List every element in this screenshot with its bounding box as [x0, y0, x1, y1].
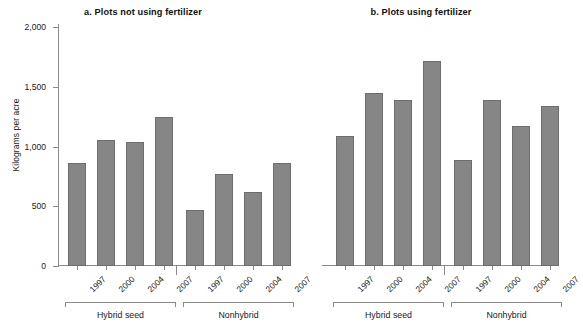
x-tick-label: 2007 [560, 274, 580, 294]
group-bracket [451, 302, 562, 307]
x-tick-mark [521, 266, 522, 270]
bar [483, 100, 501, 266]
bar [68, 163, 86, 266]
bar [541, 106, 559, 266]
x-tick-label: 2000 [116, 274, 136, 294]
x-tick-label: 2004 [413, 274, 433, 294]
x-tick-mark [224, 266, 225, 270]
chart-panel-b: b. Plots using fertilizer 19972000200420… [280, 0, 562, 329]
bar [394, 100, 412, 266]
group-separator-tick [444, 266, 445, 275]
x-tick-mark [374, 266, 375, 270]
y-tick-mark: 1,500 [53, 87, 59, 88]
y-tick-label: 1,500 [24, 82, 46, 92]
x-tick-mark [550, 266, 551, 270]
x-tick-mark [106, 266, 107, 270]
panel-a-title: a. Plots not using fertilizer [8, 7, 278, 17]
y-axis-label: Kilograms per acre [11, 70, 21, 200]
bar [454, 160, 472, 266]
bar [215, 174, 233, 266]
bar [336, 136, 354, 266]
y-axis-line [58, 24, 59, 266]
bar [365, 93, 383, 266]
bar [244, 192, 262, 266]
x-tick-label: 1997 [355, 274, 375, 294]
bar [423, 61, 441, 266]
x-tick-label: 2000 [502, 274, 522, 294]
y-tick-mark: 0 [53, 266, 59, 267]
x-tick-mark [432, 266, 433, 270]
x-tick-label: 1997 [473, 274, 493, 294]
bar [97, 140, 115, 266]
x-tick-label: 2000 [384, 274, 404, 294]
bar [186, 210, 204, 266]
y-tick-label: 1,000 [24, 142, 46, 152]
group-label: Nonhybrid [426, 310, 583, 320]
plot-area-a: 05001,0001,5002,000 1997200020042007Hybr… [58, 27, 286, 266]
group-bracket [65, 302, 176, 307]
x-tick-label: 1997 [205, 274, 225, 294]
x-tick-label: 2004 [531, 274, 551, 294]
x-tick-label: 1997 [87, 274, 107, 294]
chart-panel-a: a. Plots not using fertilizer Kilograms … [0, 0, 290, 329]
x-tick-mark [77, 266, 78, 270]
x-tick-mark [253, 266, 254, 270]
panel-b-title: b. Plots using fertilizer [280, 7, 562, 17]
y-tick-mark: 1,000 [53, 147, 59, 148]
y-tick-mark: 500 [53, 206, 59, 207]
x-tick-mark [403, 266, 404, 270]
x-tick-label: 2007 [442, 274, 462, 294]
group-separator-tick [176, 266, 177, 275]
bar [512, 126, 530, 266]
x-tick-mark [463, 266, 464, 270]
x-tick-mark [492, 266, 493, 270]
y-tick-label: 0 [41, 261, 46, 271]
bar [126, 142, 144, 266]
x-tick-label: 2007 [174, 274, 194, 294]
group-bracket [183, 302, 294, 307]
x-tick-mark [135, 266, 136, 270]
x-tick-label: 2004 [145, 274, 165, 294]
group-bracket [333, 302, 444, 307]
y-tick-mark: 2,000 [53, 27, 59, 28]
x-tick-label: 2000 [234, 274, 254, 294]
plot-area-b: 1997200020042007Hybrid seed1997200020042… [322, 27, 554, 266]
y-tick-label: 500 [32, 201, 46, 211]
x-tick-mark [195, 266, 196, 270]
x-tick-mark [164, 266, 165, 270]
y-tick-label: 2,000 [24, 22, 46, 32]
x-tick-mark [345, 266, 346, 270]
bar [155, 117, 173, 266]
